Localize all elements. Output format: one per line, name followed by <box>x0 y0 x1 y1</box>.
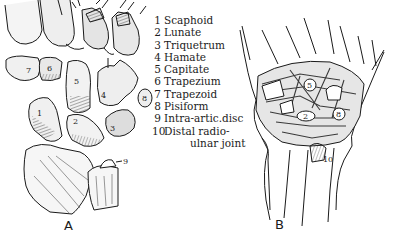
legend-num: 4 <box>152 51 161 63</box>
label-6: 6 <box>47 64 52 73</box>
legend-item-lunate: 2Lunate <box>152 26 245 38</box>
legend-item-continuation: ulnar joint <box>152 137 245 149</box>
legend-num: 6 <box>152 75 161 87</box>
ligament-mass <box>256 61 364 146</box>
label-b-5: 5 <box>307 81 312 90</box>
label-7: 7 <box>26 66 31 75</box>
label-8: 8 <box>142 94 147 103</box>
bone-trapezoid <box>6 56 40 81</box>
legend-label: Pisiform <box>164 100 208 112</box>
legend-label: Distal radio- <box>164 125 230 137</box>
legend-num: 2 <box>152 26 161 38</box>
label-2: 2 <box>73 117 78 126</box>
legend-label: Trapezium <box>164 75 221 87</box>
legend-label: Scaphoid <box>164 14 213 26</box>
legend-item-hamate: 4Hamate <box>152 51 245 63</box>
panel-b-drawing <box>240 18 384 226</box>
label-b-8: 8 <box>336 110 341 119</box>
legend-item-intra-articular-disc: 9Intra-artic.disc <box>152 112 245 124</box>
legend-label: Trapezoid <box>164 88 217 100</box>
bone-radius <box>24 144 94 214</box>
label-9: 9 <box>123 157 128 166</box>
legend-label: Lunate <box>164 26 201 38</box>
legend-num: 3 <box>152 39 161 51</box>
legend-item-capitate: 5Capitate <box>152 63 245 75</box>
label-b-2: 2 <box>303 112 308 121</box>
label-5: 5 <box>74 77 79 86</box>
legend-num: 9 <box>152 112 161 124</box>
panel-label-b: B <box>275 217 284 232</box>
metacarpal-bases <box>5 0 146 55</box>
bone-legend: 1Scaphoid 2Lunate 3Triquetrum 4Hamate 5C… <box>152 14 245 149</box>
legend-num: 8 <box>152 100 161 112</box>
label-1: 1 <box>37 109 42 118</box>
legend-label: Triquetrum <box>164 39 225 51</box>
legend-num: 7 <box>152 88 161 100</box>
legend-num: 5 <box>152 63 161 75</box>
legend-label: Intra-artic.disc <box>164 112 243 124</box>
legend-item-triquetrum: 3Triquetrum <box>152 39 245 51</box>
legend-num: 10 <box>152 125 161 137</box>
legend-item-distal-radioulnar-joint: 10Distal radio- <box>152 125 245 137</box>
legend-item-trapezoid: 7Trapezoid <box>152 88 245 100</box>
legend-label: Hamate <box>164 51 206 63</box>
label-4: 4 <box>101 91 106 100</box>
bone-ulna <box>88 166 118 210</box>
legend-item-scaphoid: 1Scaphoid <box>152 14 245 26</box>
legend-item-trapezium: 6Trapezium <box>152 75 245 87</box>
legend-label-continuation: ulnar joint <box>190 137 245 149</box>
legend-item-pisiform: 8Pisiform <box>152 100 245 112</box>
legend-label: Capitate <box>164 63 209 75</box>
legend-num: 1 <box>152 14 161 26</box>
panel-a-drawing <box>5 0 152 214</box>
label-3: 3 <box>110 124 115 133</box>
panel-label-a: A <box>64 218 73 233</box>
intra-articular-disc <box>100 160 116 168</box>
label-b-10: 10 <box>323 155 333 164</box>
